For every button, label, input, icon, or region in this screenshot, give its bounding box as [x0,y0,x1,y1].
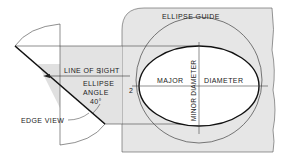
edge-view-leader [68,113,89,120]
edge-view-label: EDGE VIEW [21,117,64,124]
minor-diameter-label: MINOR DIAMETER [190,60,197,121]
ellipse-guide-diagram: ELLIPSE GUIDE LINE OF SIGHT ELLIPSE ANGL… [0,0,288,163]
rotation-arc-bottom [60,124,105,145]
line-of-sight-label: LINE OF SIGHT [64,67,120,74]
ellipse-angle-value: 40° [90,98,102,105]
ellipse-angle-label-line1: ELLIPSE [83,80,114,87]
diameter-label: DIAMETER [204,77,243,84]
rotation-arc-top [15,24,60,46]
edge-view-shade [38,64,60,108]
ellipse-angle-label-line2: ANGLE [83,89,109,96]
ellipse-guide-title: ELLIPSE GUIDE [162,13,220,20]
major-label: MAJOR [157,77,184,84]
index-number: 2 [129,87,133,94]
